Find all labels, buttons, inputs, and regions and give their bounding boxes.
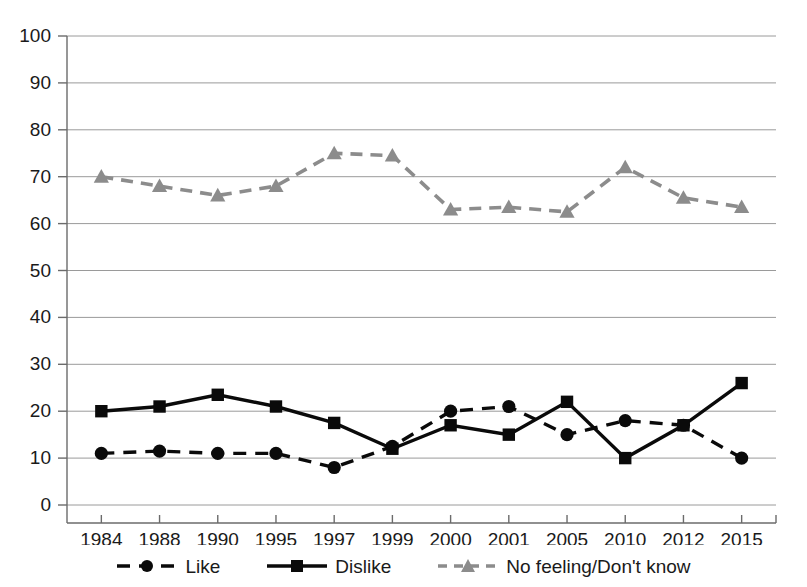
series-line bbox=[101, 383, 741, 458]
data-series bbox=[94, 146, 750, 474]
x-tick-label: 2015 bbox=[721, 529, 763, 545]
legend-item-like[interactable]: Like bbox=[116, 557, 220, 576]
data-point-marker bbox=[212, 389, 224, 401]
data-point-marker bbox=[328, 417, 340, 429]
x-tick-label: 1997 bbox=[313, 529, 355, 545]
x-tick-label: 1995 bbox=[255, 529, 297, 545]
data-point-marker bbox=[618, 160, 633, 174]
x-tick-label: 1990 bbox=[197, 529, 239, 545]
legend-label: Dislike bbox=[335, 557, 391, 576]
data-point-marker bbox=[386, 443, 398, 455]
y-tick-label: 80 bbox=[30, 119, 51, 140]
data-point-marker bbox=[560, 428, 573, 441]
x-tick-label: 2005 bbox=[546, 529, 588, 545]
data-point-marker bbox=[153, 444, 166, 457]
data-point-marker bbox=[211, 447, 224, 460]
series-no-feeling-don-t-know bbox=[94, 146, 750, 218]
x-tick-label: 2001 bbox=[488, 529, 530, 545]
x-tick-label: 2010 bbox=[604, 529, 646, 545]
legend-circle-key-icon bbox=[116, 557, 178, 575]
line-chart: 0102030405060708090100 19841988199019951… bbox=[0, 0, 807, 587]
data-point-marker bbox=[270, 400, 282, 412]
data-point-marker bbox=[95, 405, 107, 417]
legend-label: No feeling/Don't know bbox=[506, 557, 690, 576]
data-point-marker bbox=[269, 447, 282, 460]
y-tick-label: 60 bbox=[30, 213, 51, 234]
x-tick-label: 1988 bbox=[138, 529, 180, 545]
y-tick-label: 30 bbox=[30, 353, 51, 374]
legend-triangle-key-icon bbox=[437, 557, 499, 575]
x-tick-label: 2000 bbox=[429, 529, 471, 545]
x-tick-label: 2012 bbox=[662, 529, 704, 545]
plot-area: 0102030405060708090100 19841988199019951… bbox=[0, 0, 807, 545]
data-point-marker bbox=[444, 405, 457, 418]
data-point-marker bbox=[385, 148, 400, 162]
chart-legend: LikeDislikeNo feeling/Don't know bbox=[0, 545, 807, 587]
y-tick-label: 20 bbox=[30, 400, 51, 421]
legend-item-no-feeling-don-t-know[interactable]: No feeling/Don't know bbox=[437, 557, 690, 576]
y-axis-tick-labels: 0102030405060708090100 bbox=[19, 25, 51, 515]
y-tick-label: 70 bbox=[30, 166, 51, 187]
data-point-marker bbox=[444, 419, 456, 431]
y-tick-label: 0 bbox=[40, 494, 51, 515]
legend-square-key-icon bbox=[266, 557, 328, 575]
chart-canvas: 0102030405060708090100 19841988199019951… bbox=[0, 0, 807, 545]
y-tick-label: 40 bbox=[30, 306, 51, 327]
legend-item-dislike[interactable]: Dislike bbox=[266, 557, 391, 576]
data-point-marker bbox=[735, 377, 747, 389]
x-tick-label: 1984 bbox=[80, 529, 123, 545]
y-tick-label: 50 bbox=[30, 260, 51, 281]
data-point-marker bbox=[619, 452, 631, 464]
x-axis-tick-labels: 1984198819901995199719992000200120052010… bbox=[80, 529, 763, 545]
y-tick-label: 100 bbox=[19, 25, 51, 46]
y-tick-label: 90 bbox=[30, 72, 51, 93]
data-point-marker bbox=[502, 400, 515, 413]
data-point-marker bbox=[503, 428, 515, 440]
data-point-marker bbox=[735, 452, 748, 465]
series-line bbox=[101, 153, 741, 212]
data-point-marker bbox=[677, 419, 689, 431]
legend-label: Like bbox=[185, 557, 220, 576]
data-point-marker bbox=[561, 396, 573, 408]
data-point-marker bbox=[619, 414, 632, 427]
data-point-marker bbox=[328, 461, 341, 474]
data-point-marker bbox=[153, 400, 165, 412]
x-tick-label: 1999 bbox=[371, 529, 413, 545]
data-point-marker bbox=[95, 447, 108, 460]
y-tick-label: 10 bbox=[30, 447, 51, 468]
